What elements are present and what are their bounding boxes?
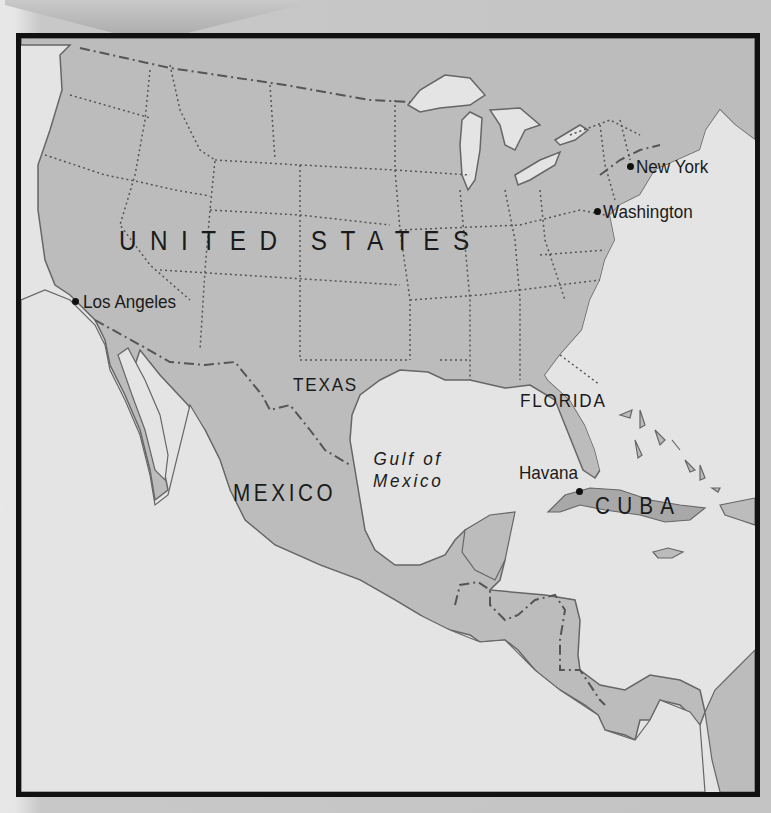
jamaica-island bbox=[653, 548, 683, 558]
city-marker-washington bbox=[594, 208, 601, 215]
water-label-line-2: Mexico bbox=[373, 470, 443, 492]
south-america bbox=[705, 650, 755, 792]
map-canvas bbox=[21, 38, 755, 792]
map-frame: UNITED STATES TEXAS FLORIDA MEXICO CUBA … bbox=[16, 33, 760, 797]
water-label-gulf-of-mexico: Gulf of Mexico bbox=[373, 448, 443, 492]
country-label-united-states: UNITED STATES bbox=[119, 226, 483, 257]
city-label-new-york: New York bbox=[636, 156, 708, 178]
water-label-line-1: Gulf of bbox=[373, 448, 443, 470]
state-label-florida: FLORIDA bbox=[520, 390, 607, 412]
city-label-washington: Washington bbox=[603, 201, 693, 223]
city-marker-los-angeles bbox=[72, 298, 79, 305]
city-marker-new-york bbox=[627, 163, 634, 170]
country-label-cuba: CUBA bbox=[595, 493, 681, 520]
state-label-texas: TEXAS bbox=[293, 374, 358, 396]
city-marker-havana bbox=[576, 488, 583, 495]
city-label-havana: Havana bbox=[519, 462, 578, 484]
city-label-los-angeles: Los Angeles bbox=[83, 291, 176, 313]
country-label-mexico: MEXICO bbox=[233, 480, 336, 507]
hispaniola-island bbox=[720, 498, 755, 525]
